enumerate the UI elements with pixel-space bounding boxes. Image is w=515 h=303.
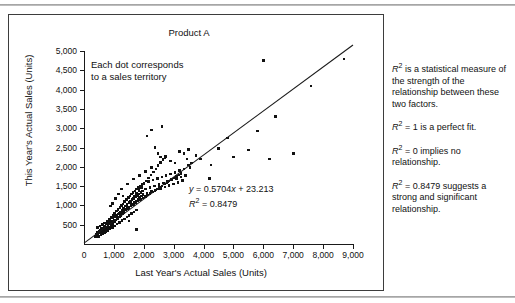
data-point [232, 156, 235, 159]
data-point [157, 152, 160, 155]
x-tick [323, 244, 324, 249]
data-point [161, 125, 164, 128]
x-tick [204, 244, 205, 249]
data-point [144, 188, 147, 191]
y-tick-label: 500 [35, 221, 77, 230]
data-point [129, 195, 132, 198]
data-point [138, 189, 141, 192]
data-point [199, 158, 202, 161]
data-point [135, 209, 138, 212]
data-point [164, 186, 167, 189]
x-tick [233, 244, 234, 249]
data-point [174, 162, 177, 165]
x-tick [263, 244, 264, 249]
data-point [164, 155, 167, 158]
x-tick [353, 244, 354, 249]
data-point [172, 183, 175, 186]
data-point [138, 174, 141, 177]
figure-root: Product A Each dot corresponds to a sale… [0, 0, 515, 303]
data-point [146, 135, 149, 138]
r-squared-line: R2 = 0.8479 [189, 195, 274, 210]
page-rule-top [0, 4, 515, 6]
data-point [114, 197, 117, 200]
data-point [150, 166, 153, 169]
data-point [162, 158, 165, 161]
data-point [186, 158, 189, 161]
data-point [183, 152, 186, 155]
data-point [247, 149, 250, 152]
data-point [210, 164, 213, 167]
explanation-paragraph-3: R2 = 0 implies no relationship. [392, 142, 508, 169]
data-point [159, 161, 162, 164]
data-point [155, 168, 158, 171]
data-point [161, 176, 164, 179]
data-point [120, 188, 123, 191]
data-point [180, 176, 183, 179]
data-point [183, 168, 186, 171]
page-rule-bottom [0, 296, 515, 298]
data-point [152, 171, 155, 174]
data-point [178, 150, 181, 153]
data-point [154, 146, 157, 149]
data-point [268, 158, 271, 161]
y-tick-label: 1,500 [35, 182, 77, 191]
data-point [149, 186, 152, 189]
data-point [181, 179, 184, 182]
data-point [132, 178, 135, 181]
y-tick [80, 109, 85, 110]
explanation-paragraph-2: R2 = 1 is a perfect fit. [392, 118, 508, 134]
chart-title: Product A [129, 27, 249, 38]
data-point [150, 174, 153, 177]
y-tick-label: 4,500 [35, 66, 77, 75]
x-axis-line [84, 244, 353, 245]
data-point [292, 152, 295, 155]
chart-frame: Product A Each dot corresponds to a sale… [8, 14, 384, 291]
data-point [168, 184, 171, 187]
data-point [217, 147, 220, 150]
data-point [109, 205, 112, 208]
explanation-paragraph-4: R2 = 0.8479 suggests a strong and signif… [392, 177, 508, 216]
scatter-plot: Product A Each dot corresponds to a sale… [9, 15, 383, 290]
data-point [190, 162, 193, 165]
data-point [145, 180, 148, 183]
x-tick [293, 244, 294, 249]
data-point [122, 195, 125, 198]
y-tick [80, 90, 85, 91]
data-point [135, 192, 138, 195]
data-point [226, 137, 229, 140]
data-point [133, 195, 136, 198]
y-tick-label: 5,000 [35, 47, 77, 56]
data-point [128, 220, 131, 223]
data-point [174, 171, 177, 174]
y-tick-label: 3,500 [35, 105, 77, 114]
y-tick [80, 148, 85, 149]
y-tick-label: 1,000 [35, 201, 77, 210]
equation-line: y = 0.5704x + 23.213 [189, 183, 274, 195]
data-point [274, 115, 277, 118]
data-point [131, 198, 134, 201]
y-tick [80, 70, 85, 71]
data-point [116, 217, 119, 220]
explanation-panel: R2 is a statistical measure of the stren… [392, 60, 508, 223]
plot-annotation-line1: Each dot corresponds [91, 59, 183, 71]
data-point [143, 183, 146, 186]
x-tick [144, 244, 145, 249]
data-point [189, 166, 192, 169]
data-point [152, 179, 155, 182]
data-point [147, 177, 150, 180]
y-tick [80, 167, 85, 168]
y-tick-label: 2,000 [35, 163, 77, 172]
data-point [126, 183, 129, 186]
y-tick [80, 205, 85, 206]
data-point [177, 181, 180, 184]
data-point [107, 229, 110, 232]
y-tick [80, 128, 85, 129]
y-tick [80, 51, 85, 52]
data-point [117, 193, 120, 196]
data-point [140, 186, 143, 189]
data-point [144, 170, 147, 173]
data-point [169, 173, 172, 176]
data-point [180, 172, 183, 175]
y-tick-label: 4,000 [35, 86, 77, 95]
x-tick [174, 244, 175, 249]
